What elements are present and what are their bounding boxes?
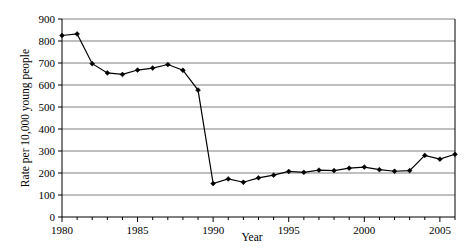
y-tick-label: 900 xyxy=(39,13,56,25)
y-tick-label: 600 xyxy=(39,79,56,91)
y-tick-label: 100 xyxy=(39,189,56,201)
y-axis-title: Rate per 10,000 young people xyxy=(19,49,32,187)
plot-background xyxy=(62,19,455,217)
y-tick-label: 0 xyxy=(50,211,56,223)
x-tick-label: 1990 xyxy=(202,224,225,236)
line-chart: 0100200300400500600700800900 19801985199… xyxy=(0,0,475,251)
x-axis-ticks xyxy=(62,217,455,222)
x-tick-label: 2005 xyxy=(429,224,452,236)
x-tick-label: 2000 xyxy=(353,224,376,236)
y-tick-label: 300 xyxy=(39,145,56,157)
x-tick-label: 1985 xyxy=(127,224,150,236)
x-axis-title: Year xyxy=(241,231,262,243)
y-axis-ticks xyxy=(58,19,62,217)
y-tick-label: 800 xyxy=(39,35,56,47)
y-tick-label: 200 xyxy=(39,167,56,179)
chart-page: 0100200300400500600700800900 19801985199… xyxy=(0,0,475,251)
x-tick-label: 1980 xyxy=(51,224,74,236)
x-tick-label: 1995 xyxy=(278,224,301,236)
y-axis-tick-labels: 0100200300400500600700800900 xyxy=(39,13,56,223)
y-tick-label: 400 xyxy=(39,123,56,135)
y-tick-label: 700 xyxy=(39,57,56,69)
y-tick-label: 500 xyxy=(39,101,56,113)
